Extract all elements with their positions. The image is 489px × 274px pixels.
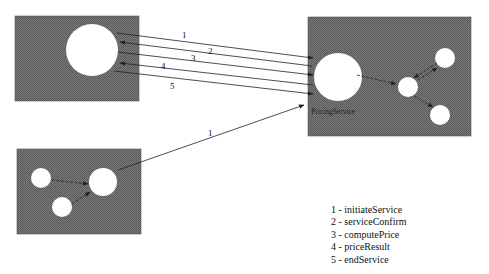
message-label-other-1: 1 [208,128,213,138]
message-legend: 1 - initiateService 2 - serviceConfirm 3… [331,204,407,266]
legend-item: 3 - computePrice [331,229,407,241]
legend-item: 2 - serviceConfirm [331,216,407,228]
legend-item: 5 - endService [331,254,407,266]
other-client-box [17,149,141,234]
diagram-canvas: PricingService 1 2 3 4 5 1 [0,0,489,274]
client-component [15,16,139,101]
pricing-service-component: PricingService [308,17,471,136]
other-client-component [17,149,141,234]
other-client-circle-main [89,168,117,196]
client-circle [66,24,118,76]
message-label-5: 5 [170,81,175,91]
internal-circle-top [435,48,455,68]
other-client-circle-a [31,168,51,188]
pricing-service-circle [314,53,362,101]
internal-circle-center [398,77,418,97]
internal-circle-bottom [430,105,450,125]
message-arrow-3 [118,52,313,75]
message-arrow-5 [114,71,313,94]
other-client-circle-b [52,197,72,217]
pricing-service-label: PricingService [311,107,356,116]
message-arrow-4 [120,63,313,85]
message-arrows: 1 2 3 4 5 1 [114,30,313,170]
message-label-1: 1 [182,30,187,40]
message-label-2: 2 [208,46,213,56]
message-label-4: 4 [161,61,166,71]
legend-item: 1 - initiateService [331,204,407,216]
message-label-3: 3 [191,53,196,63]
legend-item: 4 - priceResult [331,241,407,253]
